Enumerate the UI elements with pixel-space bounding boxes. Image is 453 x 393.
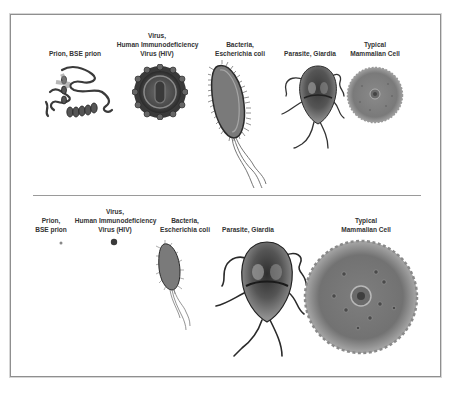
label-line: Prion, (31, 216, 72, 225)
bottom-label-virus: Virus, Human Immunodeficiency Virus (HIV… (75, 207, 155, 234)
label-line: Human Immunodeficiency (117, 40, 197, 49)
label-line: BSE prion (31, 225, 72, 234)
ecoli-bacterium-icon (208, 60, 280, 190)
label-line: Prion, BSE prion (46, 49, 103, 58)
top-label-prion: Prion, BSE prion (46, 49, 103, 58)
top-label-cell: Typical Mammalian Cell (346, 40, 403, 58)
hiv-virus-icon (132, 64, 188, 120)
label-line: Mammalian Cell (337, 225, 394, 234)
top-label-virus: Virus, Human Immunodeficiency Virus (HIV… (117, 31, 197, 58)
mammalian-cell-icon (346, 66, 404, 124)
mammalian-cell-large-icon (302, 238, 420, 356)
label-line: Escherichia coli (211, 49, 268, 58)
top-label-parasite: Parasite, Giardia (281, 49, 338, 58)
prion-dot-icon (58, 240, 64, 246)
label-line: Virus, (75, 207, 155, 216)
label-line: Typical (346, 40, 403, 49)
label-line: Mammalian Cell (346, 49, 403, 58)
label-line: Bacteria, (211, 40, 268, 49)
label-line: Parasite, Giardia (219, 225, 276, 234)
label-line: Bacteria, (156, 216, 213, 225)
label-line: Human Immunodeficiency (75, 216, 155, 225)
label-line: Virus (HIV) (117, 49, 197, 58)
bottom-label-parasite: Parasite, Giardia (219, 225, 276, 234)
ecoli-bacterium-small-icon (156, 240, 198, 330)
label-line: Virus, (117, 31, 197, 40)
prion-ribbon-icon (42, 62, 117, 124)
panel-divider (33, 195, 421, 196)
bottom-label-prion: Prion, BSE prion (31, 216, 72, 234)
bottom-label-bacteria: Bacteria, Escherichia coli (156, 216, 213, 234)
bottom-label-cell: Typical Mammalian Cell (337, 216, 394, 234)
top-label-bacteria: Bacteria, Escherichia coli (211, 40, 268, 58)
label-line: Escherichia coli (156, 225, 213, 234)
label-line: Parasite, Giardia (281, 49, 338, 58)
hiv-virus-dot-icon (110, 238, 118, 246)
label-line: Typical (337, 216, 394, 225)
label-line: Virus (HIV) (75, 225, 155, 234)
